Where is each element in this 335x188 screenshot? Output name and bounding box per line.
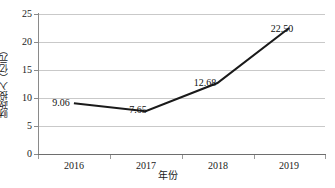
y-axis-title: 财政投入（亿元） (0, 46, 14, 118)
y-tick-20 (34, 42, 38, 43)
x-tick-boundary-4 (325, 155, 326, 159)
y-tick-25 (34, 14, 38, 15)
data-label-2018: 12.68 (183, 78, 227, 88)
data-label-2016: 9.06 (41, 98, 81, 108)
x-axis-title: 年份 (0, 170, 335, 182)
gridline-15 (38, 70, 325, 71)
y-tick-5 (34, 126, 38, 127)
data-label-2019: 22.50 (260, 24, 304, 34)
x-tick-boundary-1 (110, 155, 111, 159)
y-axis-line (38, 13, 39, 155)
y-tick-label-25: 25 (2, 9, 32, 19)
gridline-25 (38, 14, 325, 15)
x-tick-boundary-3 (254, 155, 255, 159)
y-tick-10 (34, 98, 38, 99)
y-tick-label-5: 5 (2, 121, 32, 131)
x-tick-boundary-0 (38, 155, 39, 159)
data-label-2017: 7.65 (118, 105, 158, 115)
gridline-10 (38, 98, 325, 99)
plot-area (38, 14, 325, 154)
gridline-20 (38, 42, 325, 43)
y-tick-15 (34, 70, 38, 71)
gridline-5 (38, 126, 325, 127)
line-chart: 25 20 15 10 5 0 2016 2017 2018 2019 财政投入… (0, 0, 335, 188)
x-tick-boundary-2 (182, 155, 183, 159)
y-tick-label-0: 0 (2, 149, 32, 159)
